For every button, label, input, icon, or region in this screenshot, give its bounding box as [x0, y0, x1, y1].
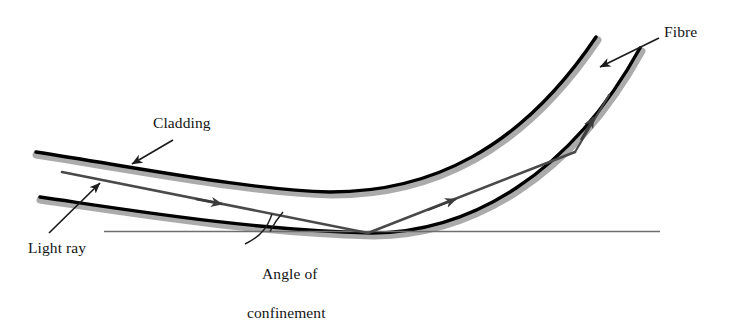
- label-light-ray: Light ray: [28, 238, 86, 257]
- label-fibre: Fibre: [664, 22, 697, 41]
- label-angle-line2: confinement: [247, 303, 326, 322]
- label-cladding: Cladding: [153, 113, 211, 132]
- label-angle-line1: Angle of: [262, 265, 317, 282]
- label-angle-of-confinement: Angle of confinement: [247, 245, 326, 322]
